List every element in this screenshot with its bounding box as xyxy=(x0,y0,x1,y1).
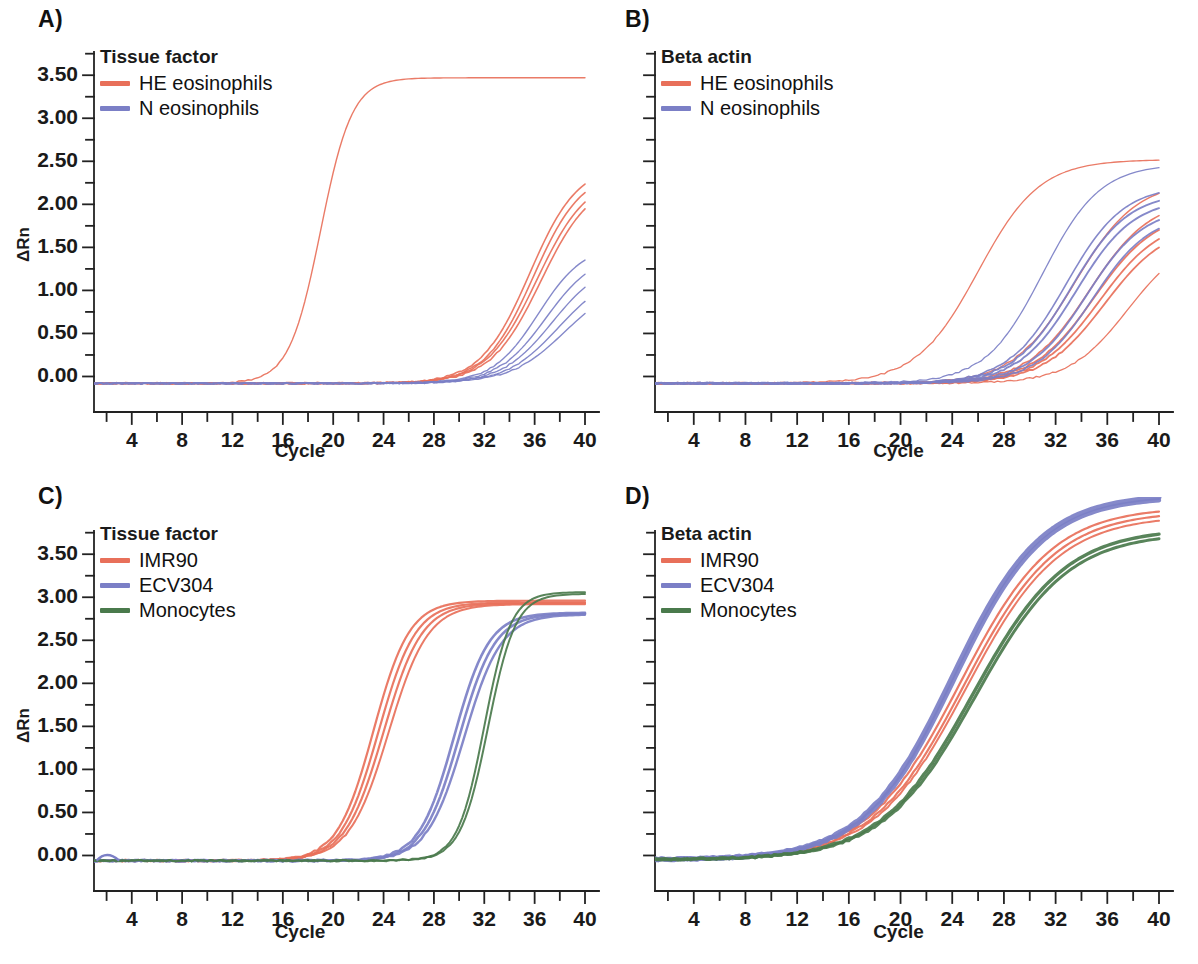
y-tick-label: 1.50 xyxy=(0,234,78,258)
panel-d-legend-label-1: ECV304 xyxy=(700,574,775,597)
panel-c-legend-title: Tissue factor xyxy=(100,523,236,545)
plot-canvas xyxy=(0,0,600,480)
x-tick-label: 40 xyxy=(1129,907,1189,931)
panel-d-legend-item-1: ECV304 xyxy=(661,573,797,598)
y-tick-label: 0.00 xyxy=(0,842,78,866)
panel-a-legend-label-1: N eosinophils xyxy=(139,97,259,120)
panel-d-legend-label-0: IMR90 xyxy=(700,549,759,572)
panel-c-label: C) xyxy=(38,483,63,510)
x-tick-label: 40 xyxy=(1129,428,1189,452)
panel-d: D) Beta actin IMR90 ECV304 Monocytes Cyc… xyxy=(599,481,1198,964)
amplification-curve xyxy=(94,184,585,384)
panel-a-legend: Tissue factor HE eosinophils N eosinophi… xyxy=(100,46,272,121)
panel-b-legend-label-1: N eosinophils xyxy=(700,97,820,120)
panel-b-legend-title: Beta actin xyxy=(661,46,833,68)
y-tick-label: 0.00 xyxy=(0,363,78,387)
amplification-curve xyxy=(94,314,585,385)
panel-b-label: B) xyxy=(625,6,650,33)
panel-d-legend-label-2: Monocytes xyxy=(700,599,797,622)
y-tick-label: 1.50 xyxy=(0,713,78,737)
panel-a: A) ΔRn Tissue factor HE eosinophils N eo… xyxy=(0,0,600,480)
amplification-curve xyxy=(655,168,1159,384)
y-tick-label: 3.00 xyxy=(0,584,78,608)
panel-b: B) Beta actin HE eosinophils N eosinophi… xyxy=(599,0,1198,480)
amplification-curve xyxy=(655,160,1159,384)
y-tick-label: 1.00 xyxy=(0,277,78,301)
amplification-curve xyxy=(655,193,1159,384)
legend-swatch-icon xyxy=(661,106,691,111)
legend-swatch-icon xyxy=(100,608,130,613)
panel-c: C) ΔRn Tissue factor IMR90 ECV304 Monocy… xyxy=(0,481,600,964)
panel-d-label: D) xyxy=(625,483,650,510)
amplification-curve xyxy=(655,220,1159,384)
amplification-curve xyxy=(94,603,585,861)
panel-a-legend-item-1: N eosinophils xyxy=(100,96,272,121)
amplification-curve xyxy=(94,602,585,861)
legend-swatch-icon xyxy=(661,583,691,588)
amplification-curve xyxy=(94,193,585,385)
y-tick-label: 0.50 xyxy=(0,320,78,344)
panel-a-legend-title: Tissue factor xyxy=(100,46,272,68)
amplification-curve xyxy=(94,601,585,862)
panel-a-legend-label-0: HE eosinophils xyxy=(139,72,272,95)
panel-b-legend-label-0: HE eosinophils xyxy=(700,72,833,95)
legend-swatch-icon xyxy=(100,558,130,563)
panel-c-legend-label-2: Monocytes xyxy=(139,599,236,622)
panel-c-legend-label-1: ECV304 xyxy=(139,574,214,597)
y-tick-label: 1.00 xyxy=(0,756,78,780)
panel-b-legend-item-0: HE eosinophils xyxy=(661,71,833,96)
panel-a-legend-item-0: HE eosinophils xyxy=(100,71,272,96)
panel-c-legend-item-1: ECV304 xyxy=(100,573,236,598)
legend-swatch-icon xyxy=(661,608,691,613)
amplification-curve xyxy=(94,202,585,384)
legend-swatch-icon xyxy=(661,558,691,563)
plot-canvas xyxy=(0,481,600,964)
y-tick-label: 3.00 xyxy=(0,105,78,129)
panel-d-legend-title: Beta actin xyxy=(661,523,797,545)
panel-b-legend-item-1: N eosinophils xyxy=(661,96,833,121)
amplification-curve xyxy=(94,604,585,861)
panel-c-legend-item-2: Monocytes xyxy=(100,598,236,623)
qpcr-amplification-figure: A) ΔRn Tissue factor HE eosinophils N eo… xyxy=(0,0,1198,964)
amplification-curve xyxy=(94,594,585,861)
y-tick-label: 2.50 xyxy=(0,148,78,172)
panel-a-label: A) xyxy=(38,6,63,33)
panel-d-legend: Beta actin IMR90 ECV304 Monocytes xyxy=(661,523,797,623)
panel-c-legend: Tissue factor IMR90 ECV304 Monocytes xyxy=(100,523,236,623)
legend-swatch-icon xyxy=(100,583,130,588)
y-tick-label: 3.50 xyxy=(0,62,78,86)
legend-swatch-icon xyxy=(661,81,691,86)
amplification-curve xyxy=(94,614,585,862)
amplification-curve xyxy=(655,229,1159,385)
y-tick-label: 0.50 xyxy=(0,799,78,823)
y-tick-label: 2.00 xyxy=(0,670,78,694)
amplification-curve xyxy=(655,274,1159,385)
panel-c-legend-label-0: IMR90 xyxy=(139,549,198,572)
panel-b-legend: Beta actin HE eosinophils N eosinophils xyxy=(661,46,833,121)
legend-swatch-icon xyxy=(100,81,130,86)
panel-d-legend-item-0: IMR90 xyxy=(661,548,797,573)
y-tick-label: 3.50 xyxy=(0,541,78,565)
y-tick-label: 2.50 xyxy=(0,627,78,651)
panel-d-legend-item-2: Monocytes xyxy=(661,598,797,623)
amplification-curve xyxy=(655,193,1159,384)
panel-c-legend-item-0: IMR90 xyxy=(100,548,236,573)
amplification-curve xyxy=(655,230,1159,384)
amplification-curve xyxy=(94,613,585,862)
y-tick-label: 2.00 xyxy=(0,191,78,215)
amplification-curve xyxy=(94,78,585,384)
legend-swatch-icon xyxy=(100,106,130,111)
